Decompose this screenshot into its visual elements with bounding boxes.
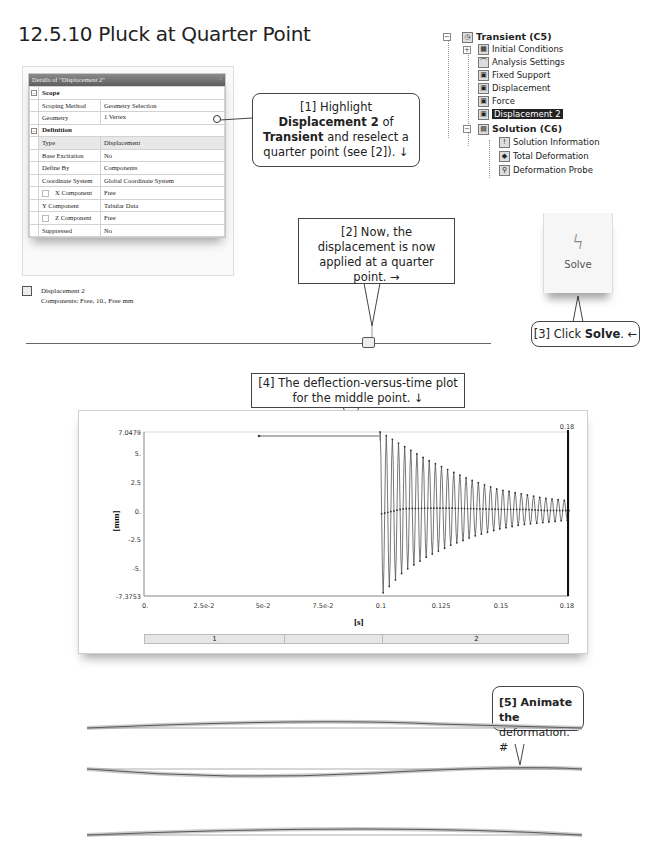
- tree-item-transient[interactable]: ◷Transient (C5): [462, 30, 552, 43]
- y-tick: 0.: [135, 508, 141, 516]
- step-1[interactable]: 1: [145, 635, 285, 643]
- tree-item-fixed-support[interactable]: ▣Fixed Support: [478, 69, 550, 82]
- tree-item-initial-conditions[interactable]: ▦Initial Conditions: [478, 43, 563, 56]
- deformation-probe-chart: 7.0479 5. 2.5 0. -2.5 -5. -7.3753 0. 2.5…: [78, 410, 588, 654]
- x-tick: 7.5e-2: [313, 602, 334, 610]
- chart-plot: 7.0479 5. 2.5 0. -2.5 -5. -7.3753 0. 2.5…: [79, 411, 589, 655]
- step-2[interactable]: 2: [382, 635, 570, 643]
- tree-item-displacement-2[interactable]: ▣Displacement 2: [478, 108, 563, 121]
- x-tick: 5e-2: [256, 602, 271, 610]
- y-tick: -2.5: [128, 536, 141, 544]
- tree-item-solution-information[interactable]: !Solution Information: [499, 136, 600, 149]
- expand-icon[interactable]: +: [463, 46, 471, 54]
- initial-conditions-icon: ▦: [478, 44, 489, 55]
- fixed-support-icon: ▣: [478, 70, 489, 81]
- force-icon: ▣: [478, 96, 489, 107]
- y-tick: -7.3753: [116, 593, 141, 601]
- x-tick: 0.18: [560, 602, 574, 610]
- displacement-icon: ▣: [478, 109, 489, 120]
- x-tick: 0.: [142, 602, 148, 610]
- animation-frame-1: [85, 718, 582, 748]
- callout-1: [1] Highlight Displacement 2 of Transien…: [252, 93, 420, 167]
- solve-button[interactable]: ϟ Solve: [543, 213, 613, 293]
- tree-item-displacement[interactable]: ▣Displacement: [478, 82, 550, 95]
- load-step-bar[interactable]: 1 2: [144, 634, 569, 644]
- deformation-probe-icon: ⚲: [499, 165, 510, 176]
- analysis-settings-icon: ⌒: [478, 57, 489, 68]
- collapse-icon[interactable]: −: [463, 125, 471, 133]
- transient-analysis-icon: ◷: [462, 32, 473, 43]
- tree-item-solution[interactable]: ▤Solution (C6): [478, 122, 562, 135]
- lightning-bolt-icon: ϟ: [544, 229, 612, 255]
- x-tick: 2.5e-2: [194, 602, 215, 610]
- tree-item-analysis-settings[interactable]: ⌒Analysis Settings: [478, 56, 565, 69]
- solution-information-icon: !: [499, 137, 510, 148]
- total-deformation-icon: ◆: [499, 151, 510, 162]
- callout-2: [2] Now, the displacement is now applied…: [298, 218, 455, 284]
- y-axis-label: [mm]: [111, 511, 121, 532]
- x-tick: 0.125: [432, 602, 451, 610]
- y-tick: 5.: [135, 450, 141, 458]
- x-axis-label: [s]: [354, 617, 364, 627]
- time-marker-label: 0.18: [560, 423, 574, 431]
- y-tick: 2.5: [131, 479, 141, 487]
- animation-frame-3: [85, 820, 582, 850]
- beam-geometry-line: [26, 343, 491, 344]
- callout-4: [4] The deflection-versus-time plot for …: [251, 373, 465, 408]
- collapse-icon[interactable]: −: [443, 33, 451, 41]
- tree-item-total-deformation[interactable]: ◆Total Deformation: [499, 150, 589, 163]
- displacement-icon: ▣: [478, 83, 489, 94]
- callout-3: [3] Click Solve. ←: [531, 321, 640, 347]
- animation-frame-2: [85, 761, 582, 791]
- displacement-vertex-marker[interactable]: [362, 337, 375, 348]
- y-tick: 7.0479: [118, 429, 141, 437]
- tree-item-deformation-probe[interactable]: ⚲Deformation Probe: [499, 164, 593, 177]
- y-tick: -5.: [132, 565, 141, 573]
- solution-icon: ▤: [478, 124, 489, 135]
- x-tick: 0.1: [376, 602, 386, 610]
- x-tick: 0.15: [494, 602, 508, 610]
- tree-item-force[interactable]: ▣Force: [478, 95, 515, 108]
